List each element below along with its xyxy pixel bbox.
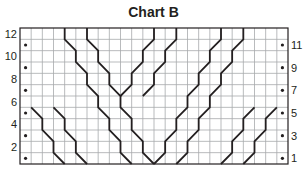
row-number-label: 2: [11, 141, 17, 153]
row-number-label: 5: [291, 107, 297, 119]
knitting-chart: 12108642 1197531: [0, 0, 307, 175]
row-labels-left: 12108642: [5, 28, 17, 153]
purl-dot-icon: [24, 43, 27, 46]
cable-line: [221, 107, 255, 164]
purl-dot-icon: [24, 157, 27, 160]
row-number-label: 10: [5, 50, 17, 62]
purl-dot-icon: [24, 66, 27, 69]
grid-lines: [20, 28, 288, 164]
row-number-label: 7: [291, 84, 297, 96]
purl-dot-icon: [24, 134, 27, 137]
purl-dot-icon: [281, 111, 284, 114]
row-number-label: 9: [291, 62, 297, 74]
row-number-label: 6: [11, 96, 17, 108]
row-number-label: 12: [5, 28, 17, 40]
purl-dot-icon: [281, 157, 284, 160]
purl-dot-icon: [281, 43, 284, 46]
purl-dot-icon: [281, 134, 284, 137]
row-number-label: 3: [291, 130, 297, 142]
purl-dot-icon: [24, 89, 27, 92]
row-number-label: 11: [291, 39, 302, 51]
purl-dot-icon: [281, 66, 284, 69]
row-number-label: 4: [11, 118, 17, 130]
purl-dot-icon: [281, 89, 284, 92]
purl-dot-icon: [24, 111, 27, 114]
row-number-label: 1: [291, 152, 297, 164]
row-labels-right: 1197531: [291, 39, 302, 164]
cable-line: [243, 107, 277, 164]
cable-line: [54, 107, 88, 164]
cable-line: [31, 107, 65, 164]
row-number-label: 8: [11, 73, 17, 85]
